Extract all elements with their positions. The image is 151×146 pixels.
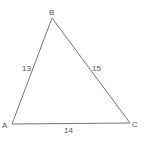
vertex-label-a: A xyxy=(2,121,8,130)
vertex-label-c: C xyxy=(132,120,138,129)
vertex-label-b: B xyxy=(49,8,54,17)
side-label-ac: 14 xyxy=(64,126,73,135)
triangle-diagram: B A C 13 15 14 xyxy=(0,0,151,146)
side-label-ab: 13 xyxy=(22,64,31,73)
side-label-bc: 15 xyxy=(92,64,101,73)
